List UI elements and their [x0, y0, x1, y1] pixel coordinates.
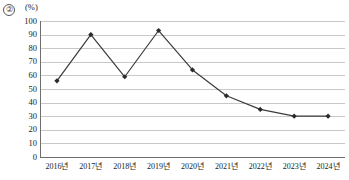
- data-point-marker: [292, 114, 297, 119]
- x-axis-tick-labels: 2016년2017년2018년2019년2020년2021년2022년2023년…: [0, 161, 349, 177]
- series-line: [57, 31, 328, 117]
- data-point-marker: [325, 114, 330, 119]
- x-tick-label: 2017년: [79, 161, 102, 173]
- x-tick-label: 2019년: [147, 161, 170, 173]
- x-tick-label: 2023년: [283, 161, 306, 173]
- x-tick-label: 2022년: [249, 161, 272, 173]
- line-chart-figure: ② (%) 1009080706050403020100 2016년2017년2…: [0, 0, 349, 180]
- x-tick-label: 2018년: [113, 161, 136, 173]
- x-tick-label: 2021년: [215, 161, 238, 173]
- data-point-marker: [258, 107, 263, 112]
- x-tick-label: 2024년: [317, 161, 340, 173]
- x-tick-label: 2020년: [181, 161, 204, 173]
- x-tick-label: 2016년: [45, 161, 68, 173]
- data-series-layer: [0, 0, 349, 180]
